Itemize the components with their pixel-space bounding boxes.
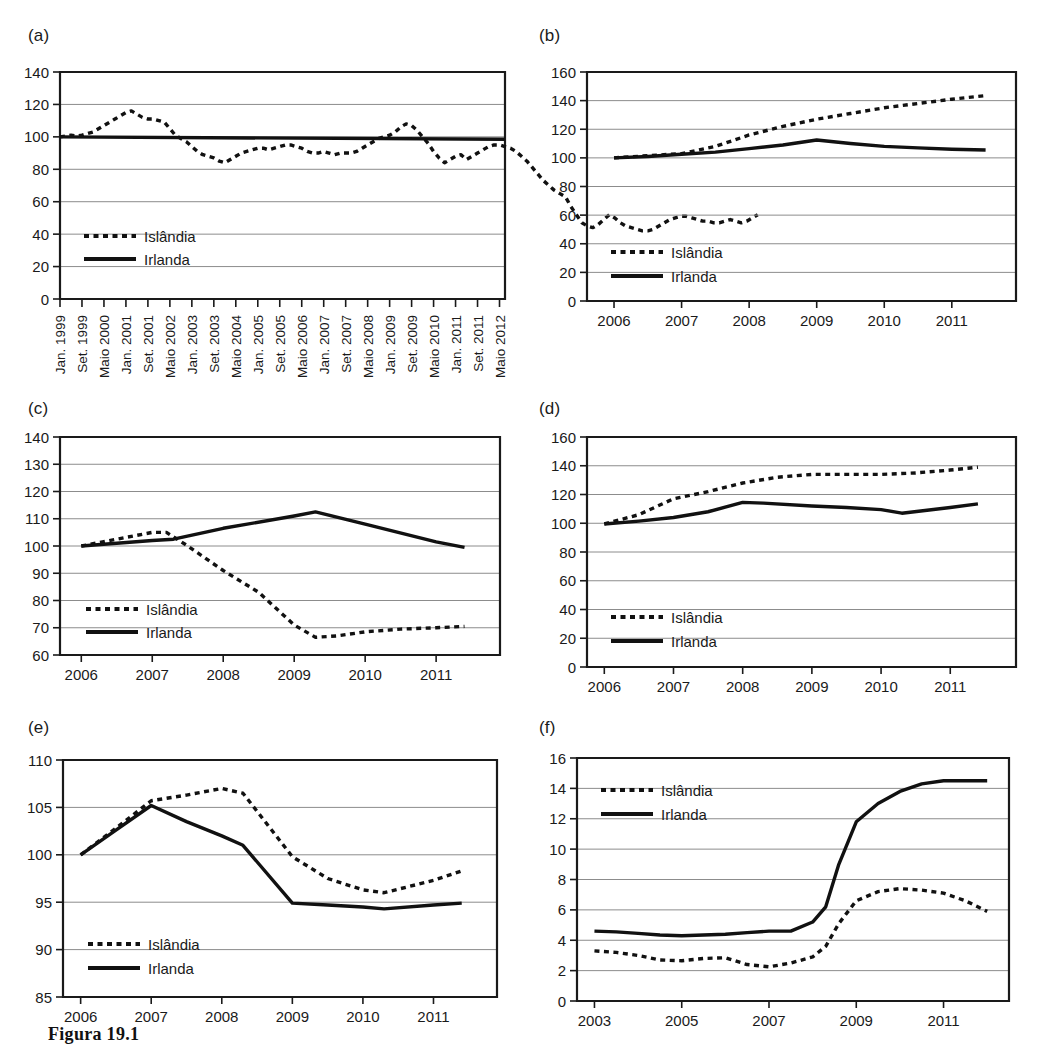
- svg-text:Maio 2000: Maio 2000: [97, 315, 112, 378]
- svg-text:Islândia: Islândia: [671, 244, 723, 261]
- panel-a-chart: 020406080100120140Jan. 1999Set. 1999Maio…: [0, 0, 519, 400]
- svg-text:80: 80: [32, 161, 49, 178]
- svg-text:8: 8: [558, 871, 566, 888]
- svg-text:0: 0: [568, 293, 576, 310]
- svg-text:60: 60: [559, 572, 576, 589]
- svg-text:120: 120: [551, 486, 576, 503]
- svg-text:2007: 2007: [135, 1008, 168, 1025]
- svg-text:2008: 2008: [732, 312, 765, 329]
- svg-text:Irlanda: Irlanda: [146, 624, 193, 641]
- svg-text:60: 60: [559, 207, 576, 224]
- svg-text:Islândia: Islândia: [148, 936, 200, 953]
- svg-text:Irlanda: Irlanda: [671, 268, 718, 285]
- svg-text:Set. 2003: Set. 2003: [207, 315, 222, 373]
- svg-text:Jan. 2001: Jan. 2001: [119, 315, 134, 374]
- svg-text:2008: 2008: [207, 666, 240, 683]
- svg-text:12: 12: [549, 810, 566, 827]
- svg-text:120: 120: [551, 121, 576, 138]
- svg-text:Set. 1999: Set. 1999: [75, 315, 90, 373]
- svg-text:160: 160: [551, 429, 576, 446]
- svg-text:40: 40: [32, 226, 49, 243]
- svg-text:70: 70: [32, 619, 49, 636]
- svg-text:2006: 2006: [65, 666, 98, 683]
- svg-text:Irlanda: Irlanda: [148, 960, 195, 977]
- panel-e-chart: 859095100105110200620072008200920102011I…: [0, 710, 519, 1040]
- svg-text:140: 140: [551, 457, 576, 474]
- svg-text:6: 6: [558, 901, 566, 918]
- svg-text:100: 100: [551, 149, 576, 166]
- panel-d-chart: 0204060801001201401602006200720082009201…: [519, 395, 1038, 710]
- panel-b: (b) 020406080100120140160200620072008200…: [519, 0, 1038, 400]
- svg-text:2006: 2006: [588, 678, 621, 695]
- svg-text:Set. 2005: Set. 2005: [273, 315, 288, 373]
- svg-text:Maio 2002: Maio 2002: [163, 315, 178, 378]
- svg-text:Maio 2010: Maio 2010: [427, 315, 442, 378]
- svg-text:40: 40: [559, 601, 576, 618]
- svg-text:10: 10: [549, 841, 566, 858]
- svg-text:16: 16: [549, 750, 566, 767]
- svg-text:95: 95: [35, 894, 52, 911]
- svg-text:Jan. 2009: Jan. 2009: [383, 315, 398, 374]
- svg-text:20: 20: [32, 258, 49, 275]
- svg-text:2007: 2007: [665, 312, 698, 329]
- svg-text:14: 14: [549, 780, 566, 797]
- svg-text:2011: 2011: [927, 1012, 959, 1029]
- svg-text:2009: 2009: [278, 666, 311, 683]
- panel-e: (e) 859095100105110200620072008200920102…: [0, 710, 519, 1040]
- svg-text:Maio 2008: Maio 2008: [361, 315, 376, 378]
- svg-text:140: 140: [551, 92, 576, 109]
- svg-text:Islândia: Islândia: [671, 609, 723, 626]
- svg-text:20: 20: [559, 264, 576, 281]
- svg-text:2008: 2008: [205, 1008, 238, 1025]
- svg-text:120: 120: [24, 483, 49, 500]
- svg-text:140: 140: [24, 429, 49, 446]
- svg-text:2010: 2010: [864, 678, 897, 695]
- svg-text:110: 110: [28, 752, 52, 769]
- svg-text:60: 60: [32, 193, 49, 210]
- svg-text:2: 2: [558, 962, 566, 979]
- svg-text:Jan. 2011: Jan. 2011: [449, 315, 464, 373]
- svg-text:2011: 2011: [417, 1008, 449, 1025]
- svg-text:Maio 2004: Maio 2004: [229, 315, 244, 379]
- svg-text:Set. 2009: Set. 2009: [405, 315, 420, 373]
- panel-f: (f) 024681012141620032005200720092011Isl…: [519, 710, 1038, 1040]
- svg-text:2010: 2010: [346, 1008, 379, 1025]
- svg-text:2011: 2011: [420, 666, 452, 683]
- svg-text:100: 100: [24, 538, 49, 555]
- svg-text:80: 80: [559, 178, 576, 195]
- svg-text:2006: 2006: [597, 312, 630, 329]
- svg-text:85: 85: [35, 989, 52, 1006]
- svg-text:Irlanda: Irlanda: [661, 806, 708, 823]
- svg-text:Maio 2012: Maio 2012: [493, 315, 508, 378]
- svg-text:60: 60: [32, 647, 49, 664]
- svg-text:Islândia: Islândia: [144, 228, 196, 245]
- svg-text:Irlanda: Irlanda: [671, 633, 718, 650]
- svg-text:90: 90: [32, 565, 49, 582]
- svg-text:2003: 2003: [578, 1012, 611, 1029]
- svg-text:100: 100: [551, 515, 576, 532]
- svg-text:Irlanda: Irlanda: [144, 251, 191, 268]
- svg-text:Jan. 2003: Jan. 2003: [185, 315, 200, 374]
- panel-f-chart: 024681012141620032005200720092011Islândi…: [519, 710, 1038, 1040]
- svg-text:2009: 2009: [800, 312, 833, 329]
- svg-text:2011: 2011: [934, 678, 966, 695]
- svg-text:4: 4: [558, 932, 566, 949]
- svg-text:160: 160: [551, 64, 576, 81]
- svg-text:Maio 2006: Maio 2006: [295, 315, 310, 378]
- panel-a: (a) 020406080100120140Jan. 1999Set. 1999…: [0, 0, 519, 400]
- svg-text:20: 20: [559, 630, 576, 647]
- svg-text:40: 40: [559, 235, 576, 252]
- svg-text:110: 110: [25, 510, 49, 527]
- svg-text:Set. 2001: Set. 2001: [141, 315, 156, 373]
- svg-text:Jan. 1999: Jan. 1999: [53, 315, 68, 374]
- svg-text:80: 80: [559, 544, 576, 561]
- svg-text:80: 80: [32, 592, 49, 609]
- svg-text:2006: 2006: [64, 1008, 97, 1025]
- svg-text:140: 140: [24, 64, 49, 81]
- svg-text:90: 90: [35, 941, 52, 958]
- svg-text:2008: 2008: [726, 678, 759, 695]
- svg-text:2010: 2010: [348, 666, 381, 683]
- svg-text:2010: 2010: [868, 312, 901, 329]
- svg-text:100: 100: [24, 128, 49, 145]
- svg-text:100: 100: [27, 846, 52, 863]
